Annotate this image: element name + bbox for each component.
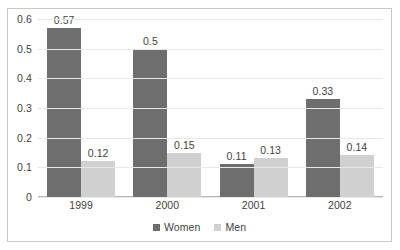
- y-axis-tick-label: 0.5: [17, 43, 32, 55]
- y-axis-tick-label: 0: [26, 191, 32, 203]
- plot-area: 0.570.120.50.150.110.130.330.14: [38, 19, 383, 197]
- chart-legend: WomenMen: [8, 221, 391, 233]
- bar-men-2002[interactable]: 0.14: [340, 155, 374, 197]
- gridline: [38, 138, 383, 139]
- legend-swatch-icon: [214, 224, 221, 231]
- y-axis-tick-label: 0.1: [17, 161, 32, 173]
- x-axis: 1999200020012002: [38, 199, 383, 219]
- bar-women-2002[interactable]: 0.33: [306, 99, 340, 197]
- legend-swatch-icon: [153, 224, 160, 231]
- gridline: [38, 167, 383, 168]
- gridline: [38, 49, 383, 50]
- bar-women-1999[interactable]: 0.57: [47, 28, 81, 197]
- gridline: [38, 108, 383, 109]
- y-axis-tick-label: 0.3: [17, 102, 32, 114]
- chart-container: 0.60.50.40.30.20.10 0.570.120.50.150.110…: [7, 8, 392, 242]
- bar-value-label: 0.12: [88, 147, 109, 159]
- bar-value-label: 0.13: [260, 144, 281, 156]
- legend-label: Women: [164, 221, 201, 233]
- bar-value-label: 0.14: [346, 141, 367, 153]
- y-axis-tick-label: 0.4: [17, 72, 32, 84]
- bar-value-label: 0.11: [227, 150, 247, 162]
- x-axis-tick-label: 1999: [38, 199, 124, 219]
- bar-men-2001[interactable]: 0.13: [254, 158, 288, 197]
- y-axis: 0.60.50.40.30.20.10: [8, 19, 36, 197]
- bar-value-label: 0.5: [143, 35, 158, 47]
- x-axis-tick-label: 2000: [124, 199, 210, 219]
- bar-men-2000[interactable]: 0.15: [167, 153, 201, 198]
- bar-women-2000[interactable]: 0.5: [133, 49, 167, 197]
- gridline: [38, 19, 383, 20]
- gridline: [38, 197, 383, 198]
- bar-value-label: 0.15: [174, 139, 195, 151]
- y-axis-tick-label: 0.6: [17, 13, 32, 25]
- bar-value-label: 0.33: [312, 85, 333, 97]
- legend-item-women[interactable]: Women: [153, 221, 201, 233]
- gridline: [38, 78, 383, 79]
- legend-item-men[interactable]: Men: [214, 221, 246, 233]
- x-axis-tick-label: 2002: [297, 199, 383, 219]
- legend-label: Men: [225, 221, 246, 233]
- bar-women-2001[interactable]: 0.11: [220, 164, 254, 197]
- x-axis-tick-label: 2001: [211, 199, 297, 219]
- y-axis-tick-label: 0.2: [17, 132, 32, 144]
